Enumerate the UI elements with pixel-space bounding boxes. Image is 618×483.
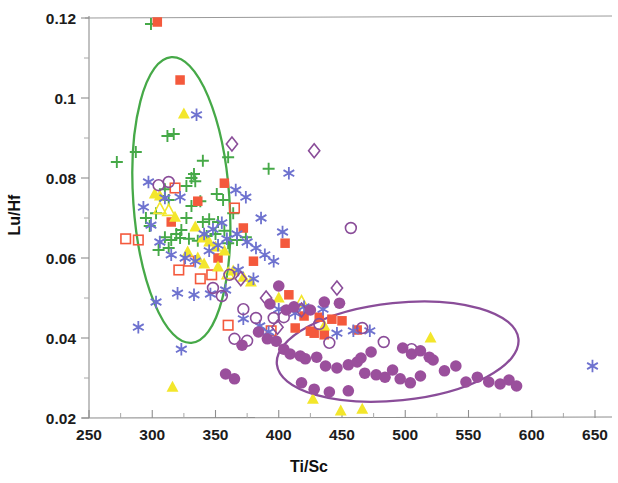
point-purple-filled-circle-1 xyxy=(264,298,276,310)
square-glyph xyxy=(223,320,233,330)
circle-glyph xyxy=(300,353,312,365)
square-glyph xyxy=(337,316,347,326)
plot-top-border xyxy=(85,16,612,18)
point-green-plus-13 xyxy=(211,188,223,200)
plus-glyph xyxy=(111,156,123,168)
plus-glyph xyxy=(168,128,180,140)
x-tick-label-650: 650 xyxy=(582,426,608,443)
circle-glyph xyxy=(345,223,356,234)
point-red-open-square-0 xyxy=(170,183,180,193)
plot-frame xyxy=(82,16,612,418)
circle-glyph xyxy=(264,298,276,310)
point-purple-filled-circle-47 xyxy=(229,373,241,385)
square-glyph xyxy=(175,75,185,85)
point-green-plus-4 xyxy=(197,155,209,167)
series-orange-filled-square xyxy=(153,17,362,339)
circle-glyph xyxy=(251,313,262,324)
diamond-glyph xyxy=(309,144,320,158)
circle-glyph xyxy=(318,296,330,308)
square-glyph xyxy=(306,326,316,336)
point-green-plus-20 xyxy=(180,212,192,224)
square-glyph xyxy=(170,183,180,193)
square-glyph xyxy=(284,290,294,300)
point-purple-filled-circle-14 xyxy=(300,353,312,365)
point-purple-filled-circle-41 xyxy=(324,386,336,398)
asterisk-glyph xyxy=(166,249,177,261)
point-green-plus-33 xyxy=(218,225,230,237)
x-tick-label-300: 300 xyxy=(139,426,165,443)
x-tick-label-400: 400 xyxy=(266,426,292,443)
plus-glyph xyxy=(153,244,165,256)
point-purple-open-circle-14 xyxy=(378,337,389,348)
point-orange-filled-square-15 xyxy=(290,323,300,333)
circle-glyph xyxy=(331,362,343,374)
circle-glyph xyxy=(163,177,174,188)
point-blue-asterisk-9 xyxy=(277,226,288,238)
point-orange-filled-square-0 xyxy=(153,17,163,27)
point-purple-filled-circle-33 xyxy=(450,360,462,372)
point-purple-filled-circle-42 xyxy=(308,383,320,395)
triangle-glyph xyxy=(182,246,194,257)
point-green-plus-35 xyxy=(153,244,165,256)
point-purple-open-diamond-3 xyxy=(331,281,342,295)
point-blue-asterisk-6 xyxy=(230,184,241,196)
point-purple-filled-circle-34 xyxy=(460,376,472,388)
point-orange-filled-square-9 xyxy=(284,290,294,300)
circle-glyph xyxy=(460,376,472,388)
circle-glyph xyxy=(288,301,300,313)
x-tick-label-550: 550 xyxy=(456,426,482,443)
circle-glyph xyxy=(273,280,285,292)
asterisk-glyph xyxy=(176,343,187,355)
square-glyph xyxy=(207,270,217,280)
point-orange-filled-square-18 xyxy=(306,326,316,336)
point-green-plus-3 xyxy=(161,130,173,142)
plus-glyph xyxy=(197,216,209,228)
field-ellipses xyxy=(123,54,523,413)
point-purple-filled-circle-43 xyxy=(296,377,308,389)
point-yellow-filled-triangle-20 xyxy=(425,332,437,343)
point-purple-filled-circle-40 xyxy=(343,385,355,397)
point-green-plus-12 xyxy=(263,163,275,175)
point-yellow-filled-triangle-9 xyxy=(182,246,194,257)
asterisk-glyph xyxy=(191,109,202,121)
circle-glyph xyxy=(236,339,248,351)
point-yellow-filled-triangle-3 xyxy=(169,211,181,222)
plus-glyph xyxy=(211,188,223,200)
circle-glyph xyxy=(427,354,439,366)
circle-glyph xyxy=(268,313,279,324)
square-glyph xyxy=(196,274,206,284)
plus-glyph xyxy=(217,194,229,206)
point-orange-filled-square-2 xyxy=(220,178,230,188)
data-points xyxy=(111,17,598,415)
point-blue-asterisk-0 xyxy=(191,109,202,121)
y-tick-label-0.04: 0.04 xyxy=(46,330,77,347)
x-tick-label-600: 600 xyxy=(519,426,545,443)
point-purple-filled-circle-30 xyxy=(415,370,427,382)
circle-glyph xyxy=(305,304,317,316)
point-purple-filled-circle-35 xyxy=(472,371,484,383)
point-purple-filled-circle-16 xyxy=(320,360,332,372)
point-red-open-square-9 xyxy=(207,270,217,280)
y-tick-label-0.06: 0.06 xyxy=(46,250,77,267)
point-yellow-filled-triangle-19 xyxy=(356,403,368,414)
circle-glyph xyxy=(394,373,406,385)
plus-glyph xyxy=(183,233,195,245)
point-purple-filled-circle-4 xyxy=(288,301,300,313)
circle-glyph xyxy=(439,365,451,377)
point-yellow-filled-triangle-18 xyxy=(335,404,347,415)
square-glyph xyxy=(220,178,230,188)
point-green-plus-6 xyxy=(111,156,123,168)
square-glyph xyxy=(327,314,337,324)
circle-glyph xyxy=(355,352,367,364)
circle-glyph xyxy=(450,360,462,372)
point-purple-open-circle-2 xyxy=(345,223,356,234)
x-axis-line xyxy=(82,417,612,418)
asterisk-glyph xyxy=(240,191,251,203)
y-tick-label-0.1: 0.1 xyxy=(54,90,76,107)
point-red-open-square-2 xyxy=(121,234,131,244)
point-purple-filled-circle-2 xyxy=(236,339,248,351)
circle-glyph xyxy=(324,337,335,348)
point-orange-filled-square-8 xyxy=(249,256,259,266)
x-tick-label-350: 350 xyxy=(203,426,229,443)
triangle-glyph xyxy=(335,404,347,415)
